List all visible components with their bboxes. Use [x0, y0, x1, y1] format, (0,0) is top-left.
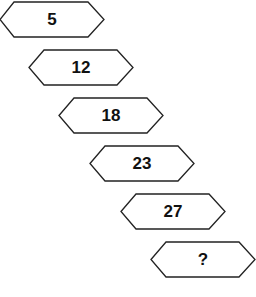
hexagon-label: 5: [0, 1, 105, 38]
hexagon-5: 27: [120, 193, 226, 230]
hexagon-3: 18: [58, 97, 164, 134]
hexagon-label: 18: [58, 97, 164, 134]
hexagon-label: 27: [120, 193, 226, 230]
hexagon-label: 12: [28, 49, 134, 86]
hexagon-1: 5: [0, 1, 105, 38]
hexagon-label-unknown: ?: [150, 241, 256, 278]
hexagon-2: 12: [28, 49, 134, 86]
hexagon-4: 23: [89, 145, 195, 182]
hexagon-label: 23: [89, 145, 195, 182]
hexagon-6: ?: [150, 241, 256, 278]
